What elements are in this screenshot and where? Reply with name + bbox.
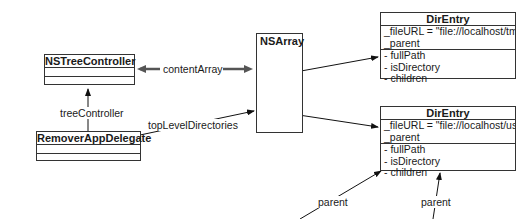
method-isdirectory: - isDirectory <box>381 62 515 74</box>
label-content-array: contentArray <box>163 63 223 75</box>
class-name: DirEntry <box>381 107 515 120</box>
class-box-nstreecontroller: NSTreeController <box>44 54 135 85</box>
object-box-nsarray: NSArray <box>256 33 303 133</box>
methods-section <box>45 77 134 85</box>
methods-section: - fullPath - isDirectory - children <box>381 144 515 179</box>
object-name: NSArray <box>260 35 304 47</box>
class-name: DirEntry <box>381 13 515 26</box>
attributes-section <box>37 145 140 154</box>
method-fullpath: - fullPath <box>381 50 515 62</box>
method-fullpath: - fullPath <box>381 144 515 156</box>
class-box-direntry-usr: DirEntry _fileURL = "file://localhost/us… <box>380 106 516 171</box>
ivar-fileurl: _fileURL = "file://localhost/tmp <box>381 26 515 38</box>
method-children: - children <box>381 73 515 85</box>
ivar-fileurl: _fileURL = "file://localhost/usr" <box>381 120 515 132</box>
ivars-section: _fileURL = "file://localhost/usr" _paren… <box>381 120 515 144</box>
ivar-parent: _parent <box>381 38 515 50</box>
method-children: - children <box>381 167 515 179</box>
method-isdirectory: - isDirectory <box>381 156 515 168</box>
class-box-direntry-tmp: DirEntry _fileURL = "file://localhost/tm… <box>380 12 516 79</box>
label-parent-right: parent <box>421 196 451 208</box>
ivar-parent: _parent <box>381 132 515 144</box>
methods-section <box>37 154 140 162</box>
label-parent-left: parent <box>318 196 348 208</box>
class-box-removerappdelegate: RemoverAppDelegate <box>36 131 141 161</box>
class-name: RemoverAppDelegate <box>37 132 140 145</box>
attributes-section <box>45 68 134 77</box>
ivars-section: _fileURL = "file://localhost/tmp _parent <box>381 26 515 50</box>
class-name: NSTreeController <box>45 55 134 68</box>
label-tree-controller: treeController <box>60 107 124 119</box>
label-top-level-directories: topLevelDirectories <box>148 119 238 131</box>
methods-section: - fullPath - isDirectory - children <box>381 50 515 85</box>
